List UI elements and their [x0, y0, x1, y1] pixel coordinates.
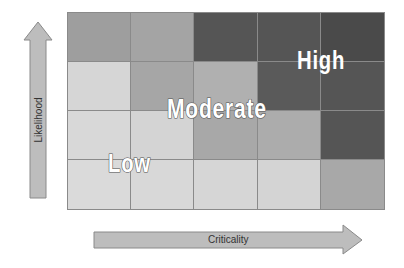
x-axis-label: Criticality [208, 234, 249, 245]
matrix-cell [194, 13, 257, 62]
matrix-cell [68, 13, 131, 62]
matrix-cell [321, 160, 384, 209]
matrix-cell [258, 160, 321, 209]
matrix-cell [194, 160, 257, 209]
zone-label-low: Low [108, 148, 151, 179]
matrix-cell [68, 62, 131, 111]
zone-label-moderate: Moderate [167, 94, 267, 125]
zone-label-high: High [297, 45, 345, 76]
matrix-cell [321, 111, 384, 160]
matrix-cell [258, 111, 321, 160]
y-axis-label: Likelihood [33, 97, 44, 142]
matrix-cell [131, 13, 194, 62]
